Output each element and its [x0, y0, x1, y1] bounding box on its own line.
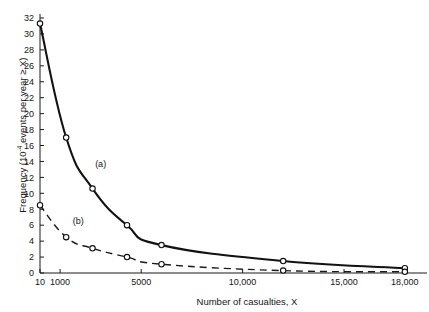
- y-tick-label: 24: [24, 77, 34, 87]
- data-point-marker: [90, 246, 95, 251]
- data-point-marker: [402, 269, 407, 274]
- x-tick-label: 5000: [131, 277, 151, 287]
- y-tick-label: 6: [29, 220, 34, 230]
- x-tick-label: 1000: [50, 277, 70, 287]
- y-tick-label: 32: [24, 13, 34, 23]
- data-point-marker: [280, 258, 285, 263]
- data-series-group: [37, 21, 407, 275]
- data-point-marker: [159, 242, 164, 247]
- y-tick-label: 12: [24, 173, 34, 183]
- x-tick-label: 10,000: [229, 277, 257, 287]
- data-point-marker: [37, 203, 42, 208]
- curve-label-a: (a): [95, 159, 106, 169]
- x-tick-label: 15,000: [330, 277, 358, 287]
- y-tick-label: 26: [24, 61, 34, 71]
- data-point-marker: [159, 262, 164, 267]
- data-point-marker: [280, 268, 285, 273]
- series-line-b: [40, 205, 405, 272]
- y-tick-label: 22: [24, 93, 34, 103]
- y-tick-label: 30: [24, 29, 34, 39]
- x-axis-title: Number of casualties, X: [197, 296, 299, 307]
- y-tick-label: 0: [29, 268, 34, 278]
- line-chart: 02468101214161820222426283032 1010005000…: [0, 0, 429, 312]
- figure-container: Frequency (10-4 events per year ≥ X) 024…: [0, 0, 429, 312]
- series-line-a: [40, 24, 405, 269]
- y-tick-label: 14: [24, 157, 34, 167]
- y-tick-label: 28: [24, 45, 34, 55]
- data-point-marker: [124, 222, 129, 227]
- y-tick-label: 10: [24, 189, 34, 199]
- x-tick-label: 18,000: [391, 277, 419, 287]
- y-tick-label: 2: [29, 252, 34, 262]
- data-point-marker: [63, 135, 68, 140]
- data-point-marker: [37, 21, 42, 26]
- y-tick-label: 16: [24, 141, 34, 151]
- curve-label-b: (b): [73, 216, 84, 226]
- y-axis-ticks: 02468101214161820222426283032: [24, 13, 44, 278]
- data-point-marker: [124, 254, 129, 259]
- data-point-marker: [90, 186, 95, 191]
- data-point-marker: [63, 234, 68, 239]
- y-tick-label: 20: [24, 109, 34, 119]
- y-tick-label: 8: [29, 205, 34, 215]
- y-tick-label: 18: [24, 125, 34, 135]
- x-tick-label: 10: [35, 277, 45, 287]
- y-tick-label: 4: [29, 236, 34, 246]
